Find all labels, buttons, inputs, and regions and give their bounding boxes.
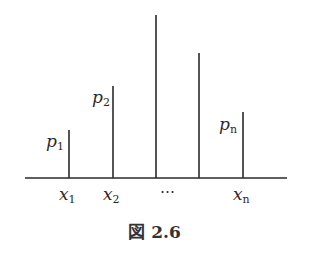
- tick-xn: xn: [233, 184, 250, 206]
- figure-caption: 図 2.6: [0, 218, 309, 243]
- label-pn: pn: [219, 114, 237, 136]
- tick-x1: x1: [59, 184, 76, 206]
- stick-diagram: p1 p2 pn x1 x2 ⋯ xn: [0, 0, 309, 253]
- tick-dots: ⋯: [160, 182, 175, 200]
- label-p1: p1: [46, 131, 64, 153]
- label-p2: p2: [92, 87, 110, 109]
- tick-x2: x2: [103, 184, 120, 206]
